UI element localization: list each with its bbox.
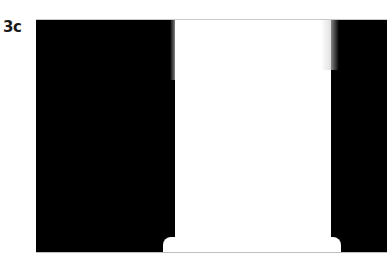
- white-column: [175, 20, 331, 252]
- figure-image: [36, 20, 387, 253]
- panel-label: 3c: [3, 18, 21, 36]
- column-base: [163, 237, 341, 252]
- column-edge-glare: [321, 20, 339, 70]
